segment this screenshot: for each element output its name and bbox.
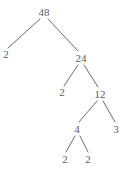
tree-node-2: 2	[85, 154, 91, 165]
tree-edge	[79, 101, 97, 122]
tree-edge	[66, 136, 75, 152]
tree-node-12: 12	[95, 89, 106, 100]
factor-tree-diagram: 482242124322	[0, 0, 128, 169]
tree-node-2: 2	[3, 49, 9, 60]
tree-node-4: 4	[74, 124, 80, 135]
tree-edge	[8, 19, 40, 48]
tree-edge	[64, 65, 78, 86]
tree-node-2: 2	[62, 154, 68, 165]
tree-node-48: 48	[39, 7, 50, 18]
tree-node-24: 24	[76, 53, 87, 64]
tree-edge	[80, 136, 88, 152]
tree-node-2: 2	[59, 87, 65, 98]
tree-edges-layer	[0, 0, 128, 169]
tree-edge	[84, 65, 98, 87]
tree-node-3: 3	[113, 124, 119, 135]
tree-edge	[48, 19, 78, 51]
tree-edge	[103, 101, 115, 122]
